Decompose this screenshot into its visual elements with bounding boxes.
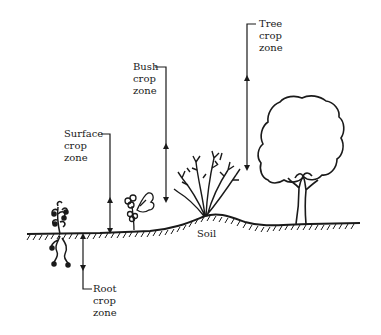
label-line: crop (93, 295, 117, 307)
root-zone-marker (83, 236, 92, 289)
surface-zone-label: Surface crop zone (64, 128, 103, 164)
surface-crop-plant-icon (125, 193, 154, 230)
label-line: zone (64, 152, 103, 164)
tree-zone-marker (247, 24, 256, 168)
soil-label: Soil (197, 228, 216, 240)
label-line: zone (259, 42, 283, 54)
root-zone-label: Root crop zone (93, 283, 117, 319)
label-line: Bush (133, 61, 158, 73)
label-line: crop (259, 30, 283, 42)
label-line: Tree (259, 18, 283, 30)
crop-zone-diagram (0, 0, 381, 335)
label-line: Root (93, 283, 117, 295)
tree-icon (258, 96, 344, 224)
label-line: Surface (64, 128, 103, 140)
ground-line (27, 214, 360, 240)
bush-icon (174, 151, 240, 216)
tree-zone-label: Tree crop zone (259, 18, 283, 54)
label-line: crop (133, 73, 158, 85)
label-line: crop (64, 140, 103, 152)
label-line: zone (93, 307, 117, 319)
bush-zone-label: Bush crop zone (133, 61, 158, 97)
label-line: zone (133, 85, 158, 97)
